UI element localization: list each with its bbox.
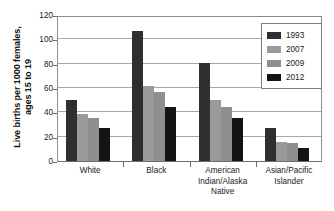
y-tick-mark: [53, 162, 57, 163]
bar: [154, 92, 165, 161]
legend: 1993200720092012: [261, 23, 322, 89]
bar: [99, 128, 110, 161]
legend-label: 2012: [286, 73, 304, 82]
bar: [165, 107, 176, 161]
bar: [132, 31, 143, 161]
bar: [88, 118, 99, 161]
legend-label: 2007: [286, 45, 304, 54]
bar-group: [66, 17, 110, 161]
x-category-label: Asian/Pacific Islander: [256, 166, 322, 187]
bar: [221, 107, 232, 161]
legend-item: 2007: [267, 42, 316, 56]
legend-swatch: [267, 60, 281, 67]
legend-swatch: [267, 74, 281, 81]
bar: [265, 128, 276, 161]
bar-group: [199, 17, 243, 161]
legend-label: 2009: [286, 59, 304, 68]
y-tick-label: 0: [27, 157, 53, 166]
bar-chart: Live births per 1000 females, ages 15 to…: [0, 0, 334, 211]
bar: [210, 100, 221, 161]
bar: [77, 114, 88, 161]
bar: [298, 148, 309, 161]
bar: [199, 63, 210, 161]
legend-swatch: [267, 32, 281, 39]
legend-item: 1993: [267, 28, 316, 42]
y-tick-label: 60: [27, 84, 53, 93]
bar: [143, 86, 154, 161]
x-category-label: White: [57, 166, 123, 177]
x-category-label: American Indian/Alaska Native: [190, 166, 256, 198]
legend-item: 2009: [267, 56, 316, 70]
x-category-label: Black: [123, 166, 189, 177]
legend-swatch: [267, 46, 281, 53]
bar: [276, 142, 287, 161]
bar: [66, 100, 77, 161]
bar: [232, 118, 243, 161]
y-tick-label: 40: [27, 108, 53, 117]
bar-group: [132, 17, 176, 161]
y-tick-label: 120: [27, 11, 53, 20]
legend-item: 2012: [267, 70, 316, 84]
bar: [287, 143, 298, 161]
y-tick-label: 80: [27, 60, 53, 69]
y-tick-label: 100: [27, 35, 53, 44]
legend-label: 1993: [286, 31, 304, 40]
y-tick-label: 20: [27, 133, 53, 142]
